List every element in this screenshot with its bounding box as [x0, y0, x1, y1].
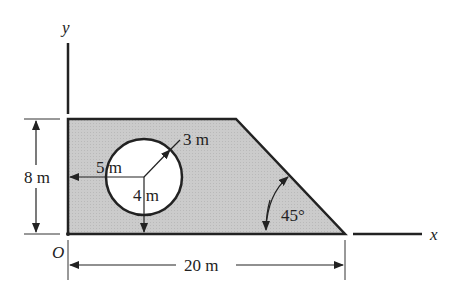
angle-label: 45°: [281, 206, 305, 225]
x-axis-label: x: [429, 225, 438, 244]
origin-label: O: [52, 243, 64, 262]
y-axis-label: y: [60, 18, 70, 37]
hole-x-dimension-label: 5 m: [96, 158, 122, 177]
hole-y-dimension-label: 4 m: [133, 186, 159, 205]
composite-area-diagram: y x O 8 m 20 m 5 m 4 m 3 m 45°: [0, 0, 452, 296]
height-dimension-label: 8 m: [24, 168, 50, 187]
hole-radius-label: 3 m: [183, 130, 209, 149]
width-dimension-label: 20 m: [184, 256, 218, 275]
origin-point: [66, 232, 70, 236]
